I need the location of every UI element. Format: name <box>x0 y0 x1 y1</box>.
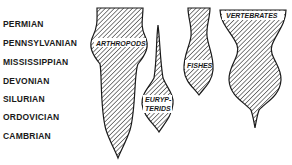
eurypterids-label-line1: EURYP- <box>145 96 172 103</box>
arthropods-label: ARTHROPODS <box>95 40 146 47</box>
arthropods-spindle: ARTHROPODS <box>91 8 147 158</box>
spindle-diagram: ARTHROPODS EURYP- TERIDS FISHES VERTEBRA… <box>0 0 292 165</box>
vertebrates-label: VERTEBRATES <box>226 12 278 19</box>
vertebrates-spindle: VERTEBRATES <box>220 10 286 128</box>
eurypterids-label-line2: TERIDS <box>145 105 171 112</box>
fishes-spindle: FISHES <box>184 8 213 95</box>
fishes-label: FISHES <box>187 62 213 69</box>
